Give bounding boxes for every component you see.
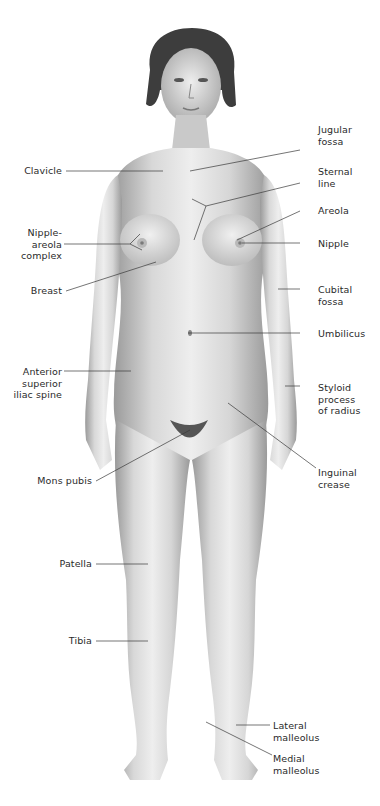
torso <box>114 148 269 460</box>
left-leg <box>115 420 190 780</box>
right-breast <box>202 214 262 266</box>
label-sternal-line: Sternal line <box>318 166 380 189</box>
label-breast: Breast <box>4 285 62 297</box>
label-medial-malleolus: Medial malleolus <box>273 753 363 776</box>
label-mons-pubis: Mons pubis <box>4 475 92 487</box>
label-clavicle: Clavicle <box>4 165 62 177</box>
label-lateral-malleolus: Lateral malleolus <box>273 720 363 743</box>
label-anterior-superior-iliac-spine: Anterior superior iliac spine <box>0 366 62 401</box>
label-cubital-fossa: Cubital fossa <box>318 284 380 307</box>
left-breast <box>120 214 180 266</box>
label-patella: Patella <box>4 558 92 570</box>
label-jugular-fossa: Jugular fossa <box>318 124 380 147</box>
label-inguinal-crease: Inguinal crease <box>318 467 380 490</box>
label-nipple: Nipple <box>318 238 380 250</box>
label-styloid-process-of-radius: Styloid process of radius <box>318 382 380 417</box>
right-leg <box>192 420 267 780</box>
label-umbilicus: Umbilicus <box>318 328 380 340</box>
label-nipple-areola-complex: Nipple- areola complex <box>4 227 62 262</box>
label-areola: Areola <box>318 205 380 217</box>
label-tibia: Tibia <box>4 635 92 647</box>
